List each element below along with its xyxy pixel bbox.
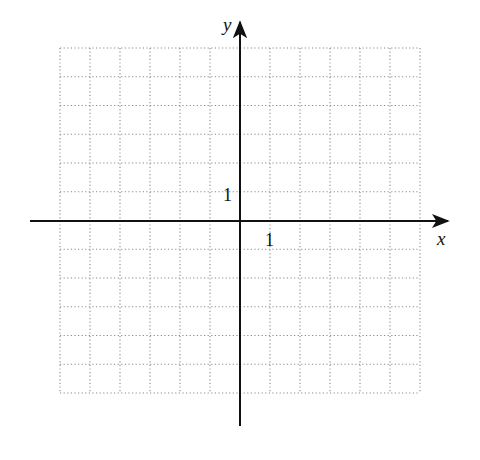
x-axis-label: x (436, 228, 446, 249)
x-tick-label-1: 1 (265, 230, 274, 250)
y-tick-label-1: 1 (223, 185, 232, 205)
coordinate-plane: y x 1 1 (0, 0, 480, 460)
y-axis-label: y (221, 14, 232, 35)
